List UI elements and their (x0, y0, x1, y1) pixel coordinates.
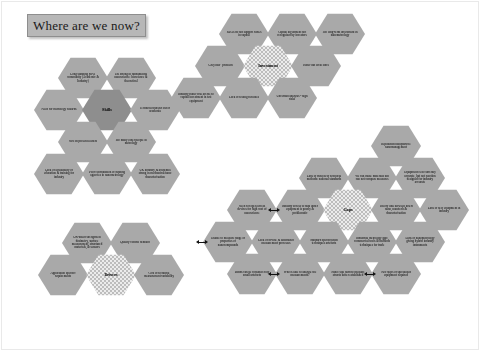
hex-label: Need for open access devices for high co… (234, 205, 270, 215)
arrow-head-right (205, 240, 208, 244)
hex-label: Technical transfer out of academia (137, 107, 173, 114)
hex-core-label: Investment (250, 64, 286, 68)
hex-label: Industry access to data under equipment … (282, 205, 318, 215)
arrow-head-right (277, 272, 280, 276)
hex-label: Lack of new equipment in industry (426, 207, 462, 214)
hex-label: We can make materials but can not compar… (354, 175, 390, 182)
hex-label: UK industry & academia strong in mechani… (137, 169, 173, 179)
hex-core-label: Drivers (93, 273, 129, 277)
hex-label: Industry rather risk averse to capital i… (178, 93, 214, 103)
hex-label: Theory link between insert nano, nanotec… (378, 205, 414, 215)
hex-label: Poor coordination of funding agencies in… (89, 171, 125, 178)
hex-label: Lack of availability of education & trai… (41, 169, 77, 179)
hex-label: MN on present leaders (65, 140, 101, 143)
connector-arrow-2 (268, 272, 280, 276)
hex-label: Industrial metrology gap: commercial too… (354, 237, 390, 247)
hex-label: Two steps of specialised equipment requi… (378, 271, 414, 278)
hex-label: UK strong in fundamental nanoscience: bi… (113, 73, 149, 83)
hex-label: RDAs do not support SMEs in capital (226, 31, 262, 38)
hex-label: Lack of trust in/of technical methods: n… (306, 175, 342, 182)
hex-label: Lack of nanometrology giving hybrid indu… (402, 237, 438, 247)
hex-label: Standard specification techniques artefa… (306, 239, 342, 246)
arrow-head-right (277, 208, 280, 212)
hex-label: Who is able to analyse the measurements? (282, 271, 318, 278)
slide-canvas: Where are we now? Long standing MNT comm… (0, 0, 482, 353)
page-title: Where are we now? (33, 18, 140, 34)
hex-label: Lack of testing facilities (226, 96, 262, 99)
hex-label: UK-based strengths in dosimetry, surface… (69, 236, 105, 249)
hex-label: Quality control demand (117, 241, 153, 244)
hex-label: Cost of technical measurement variabilit… (141, 272, 177, 279)
arrow-head-right (373, 272, 376, 276)
hex-label: Too long-term investment in nanometrolog… (322, 31, 358, 38)
connector-arrow-4 (196, 240, 208, 244)
connector-arrow-1 (268, 208, 280, 212)
hex-label: Uncertain analysis - high risks (274, 95, 310, 102)
hex-label: Faster but local since (298, 64, 334, 67)
hex-label: Long standing MNT community (Academic & … (65, 73, 101, 83)
hex-core-label: Gaps (330, 208, 366, 212)
hex-label: Need for metrology wizards (41, 108, 77, 111)
slide-title-box: Where are we now? (27, 14, 146, 37)
hex-label: Bonds can be considered by small artefac… (234, 271, 270, 278)
hex-label: Unable to measure range of properties of… (210, 237, 246, 247)
hex-label: Lack of fit-line & automated measurement… (258, 239, 294, 246)
hex-label: Application specific requirements (45, 272, 81, 279)
hex-label: Nano: still hard to measure structs bett… (330, 271, 366, 278)
hex-label: Reputation nanoparticle nanomanagement (378, 143, 414, 150)
hex-label: Capital investment not recognised by inv… (274, 31, 310, 38)
hex-label: Too many older people in metrology (113, 139, 149, 146)
hex-label: "Grey hair" problem (202, 64, 238, 67)
connector-arrow-3 (364, 272, 376, 276)
hex-core-label: Skills (89, 108, 125, 112)
hex-label: Equipment is in currently accurate, but … (402, 171, 438, 184)
